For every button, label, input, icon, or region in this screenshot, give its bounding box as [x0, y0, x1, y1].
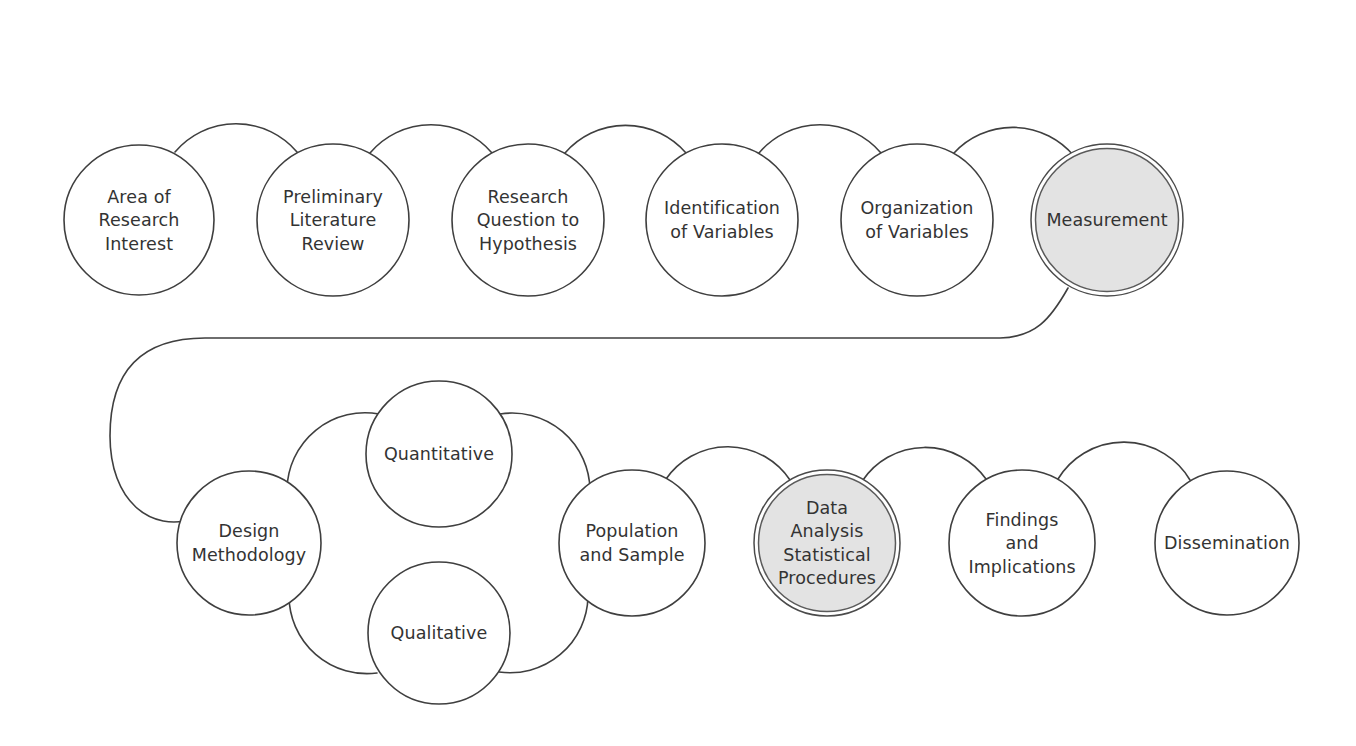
node-label-line: Research [98, 210, 179, 230]
connector-design-to-quantitative [287, 413, 379, 489]
node-label-line: Identification [664, 198, 780, 218]
node-label-quantitative: Quantitative [384, 444, 494, 464]
node-label-line: Data [806, 498, 848, 518]
node-qualitative[interactable]: Qualitative [368, 562, 510, 704]
connector-data-analysis-to-findings [863, 447, 986, 480]
node-label-line: Implications [968, 557, 1075, 577]
node-identification-of-variables[interactable]: Identificationof Variables [646, 144, 798, 296]
node-label-dissemination: Dissemination [1164, 533, 1290, 553]
node-label-line: of Variables [865, 222, 969, 242]
node-label-line: Hypothesis [479, 234, 577, 254]
node-label-line: Dissemination [1164, 533, 1290, 553]
node-label-line: Design [218, 521, 279, 541]
node-label-line: Area of [107, 187, 171, 207]
node-label-line: Methodology [192, 545, 306, 565]
node-data-analysis-statistical-procedures[interactable]: DataAnalysisStatisticalProcedures [754, 470, 900, 616]
node-label-line: Procedures [778, 568, 876, 588]
flow-diagram-canvas: Area ofResearchInterestPreliminaryLitera… [0, 0, 1356, 746]
connector-quantitative-to-population [500, 413, 590, 490]
node-label-line: Population [586, 521, 679, 541]
node-label-line: Preliminary [283, 187, 383, 207]
connector-organization-to-measurement [954, 127, 1074, 156]
node-label-line: and Sample [579, 545, 684, 565]
node-label-line: Measurement [1046, 210, 1167, 230]
connector-question-to-identification [565, 125, 686, 153]
connector-preliminary-to-question [370, 125, 492, 153]
node-design-methodology[interactable]: DesignMethodology [177, 471, 321, 615]
node-fill [177, 471, 321, 615]
connector-population-to-data-analysis [666, 447, 790, 480]
node-population-and-sample[interactable]: Populationand Sample [559, 470, 705, 616]
research-process-diagram: Area ofResearchInterestPreliminaryLitera… [0, 0, 1356, 746]
connector-design-to-qualitative [289, 596, 377, 674]
node-label-qualitative: Qualitative [391, 623, 488, 643]
connector-qualitative-to-population [499, 597, 588, 673]
node-research-question-to-hypothesis[interactable]: ResearchQuestion toHypothesis [452, 144, 604, 296]
connector-area-to-preliminary [175, 124, 297, 152]
node-preliminary-literature-review[interactable]: PreliminaryLiteratureReview [257, 144, 409, 296]
node-label-line: Findings [986, 510, 1059, 530]
node-measurement[interactable]: Measurement [1031, 144, 1183, 296]
node-label-measurement: Measurement [1046, 210, 1167, 230]
node-fill-highlighted [759, 475, 896, 612]
node-area-of-research-interest[interactable]: Area ofResearchInterest [64, 145, 214, 295]
node-label-line: of Variables [670, 222, 774, 242]
node-quantitative[interactable]: Quantitative [366, 381, 512, 527]
connector-findings-to-dissemination [1058, 442, 1190, 480]
node-label-line: and [1005, 533, 1038, 553]
node-fill [646, 144, 798, 296]
node-label-line: Interest [105, 234, 173, 254]
node-label-line: Organization [860, 198, 973, 218]
node-label-line: Quantitative [384, 444, 494, 464]
node-organization-of-variables[interactable]: Organizationof Variables [841, 144, 993, 296]
node-label-research-question-to-hypothesis: ResearchQuestion toHypothesis [477, 187, 580, 254]
node-fill [559, 470, 705, 616]
node-findings-and-implications[interactable]: FindingsandImplications [949, 470, 1095, 616]
nodes-layer: Area ofResearchInterestPreliminaryLitera… [64, 144, 1299, 704]
node-label-line: Review [301, 234, 364, 254]
node-fill [841, 144, 993, 296]
node-label-line: Analysis [791, 521, 864, 541]
node-label-line: Literature [290, 210, 377, 230]
node-label-line: Research [487, 187, 568, 207]
connector-identification-to-organization [759, 125, 881, 153]
node-label-line: Statistical [783, 545, 871, 565]
node-label-line: Question to [477, 210, 580, 230]
node-dissemination[interactable]: Dissemination [1155, 471, 1299, 615]
node-label-area-of-research-interest: Area ofResearchInterest [98, 187, 179, 254]
node-label-line: Qualitative [391, 623, 488, 643]
